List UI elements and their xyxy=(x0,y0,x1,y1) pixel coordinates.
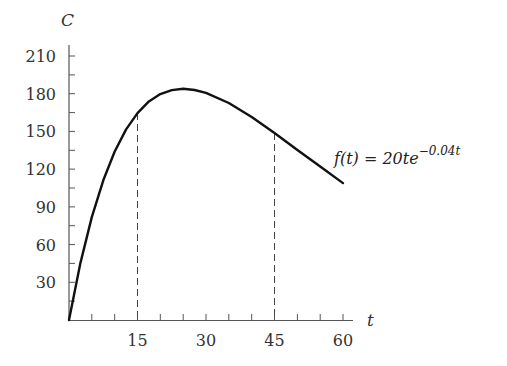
y-tick-label: 180 xyxy=(25,85,56,104)
curve-f-of-t xyxy=(69,89,343,320)
y-tick-label: 60 xyxy=(36,236,56,255)
formula-exponent: −0.04t xyxy=(419,144,461,158)
y-tick-label: 210 xyxy=(25,47,56,66)
x-tick-label: 60 xyxy=(333,331,353,350)
curve-label: f(t) = 20te−0.04t xyxy=(333,144,460,168)
x-tick-label: 45 xyxy=(264,331,284,350)
y-tick-label: 90 xyxy=(36,198,56,217)
chart: 210 180 150 120 90 60 30 15 30 45 60 C t… xyxy=(0,0,507,366)
x-tick-label: 30 xyxy=(196,331,216,350)
y-ticks xyxy=(69,56,75,301)
x-ticks xyxy=(92,314,343,320)
y-tick-label: 30 xyxy=(36,273,56,292)
y-axis-title: C xyxy=(61,10,74,30)
x-axis-title: t xyxy=(367,310,374,330)
x-tick-label: 15 xyxy=(127,331,147,350)
formula-main: f(t) = 20te xyxy=(333,149,419,168)
y-tick-label: 120 xyxy=(25,160,56,179)
y-tick-label: 150 xyxy=(25,122,56,141)
